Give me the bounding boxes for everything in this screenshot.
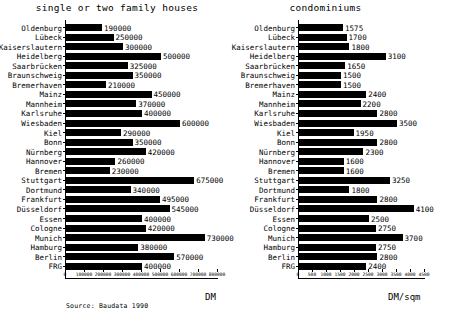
bar: [299, 215, 369, 222]
x-axis-tick-label: 600000: [171, 272, 188, 277]
x-axis-tick-label: 300000: [114, 272, 131, 277]
x-axis-tick-label: 800000: [209, 272, 226, 277]
bar: [66, 24, 102, 31]
category-label: Karlsruhe: [254, 110, 295, 118]
category-label: Oldenburg: [254, 25, 295, 33]
x-axis-tick-label: 1500: [334, 272, 345, 277]
bar: [299, 225, 376, 232]
category-label: Hamburg: [30, 244, 62, 252]
category-label: Mainz: [272, 91, 295, 99]
bar: [299, 196, 377, 203]
bar: [66, 120, 180, 127]
category-label: Bonn: [277, 139, 295, 147]
bar: [66, 158, 115, 165]
category-label: Frankfurt: [21, 196, 62, 204]
category-label: Hannover: [26, 158, 62, 166]
x-axis-ticks-condominiums: 050010001500200025003000350040004500: [298, 269, 425, 279]
bar: [66, 215, 142, 222]
category-label: Stuttgart: [21, 177, 62, 185]
bar: [66, 43, 123, 50]
category-label: Mannheim: [26, 101, 62, 109]
x-axis-tick-label: 100000: [76, 272, 93, 277]
bar: [299, 53, 386, 60]
bar: [299, 24, 343, 31]
bar: [299, 139, 377, 146]
bar: [299, 72, 341, 79]
bar: [299, 110, 377, 117]
category-label: FRG: [48, 263, 62, 271]
bar: [299, 253, 377, 260]
category-label: Kiel: [44, 130, 62, 138]
x-axis-tick-label: 4000: [404, 272, 415, 277]
bar: [66, 148, 146, 155]
x-axis-tick-label: 400000: [133, 272, 150, 277]
category-label: Karlsruhe: [21, 110, 62, 118]
bar: [299, 244, 376, 251]
category-label: Frankfurt: [254, 196, 295, 204]
category-label: Bremerhaven: [12, 82, 62, 90]
bar: [299, 158, 344, 165]
category-label: Heidelberg: [250, 53, 295, 61]
bar: [299, 81, 341, 88]
x-axis-label-condominiums: DM/sqm: [388, 292, 421, 302]
bar: [299, 167, 344, 174]
bar: [299, 129, 354, 136]
bar: [66, 253, 174, 260]
bar: [66, 34, 114, 41]
x-axis-tick-label: 700000: [190, 272, 207, 277]
plot-area-condominiums: Oldenburg1575Lübeck1700Kaiserslautern180…: [298, 20, 425, 279]
bar: [66, 139, 133, 146]
category-label: Stuttgart: [254, 177, 295, 185]
bar: [66, 205, 170, 212]
category-label: Mannheim: [259, 101, 295, 109]
bar: [299, 205, 414, 212]
x-axis-tick-label: 2500: [362, 272, 373, 277]
bar: [66, 91, 152, 98]
bar: [66, 62, 128, 69]
bar: [66, 177, 194, 184]
bar: [66, 225, 146, 232]
x-axis-tick-label: 2000: [348, 272, 359, 277]
bar: [66, 234, 205, 241]
chart-title-condominiums: condominiums: [228, 2, 449, 13]
category-label: Kiel: [277, 130, 295, 138]
bar: [299, 62, 345, 69]
category-label: Saarbrücken: [12, 63, 62, 71]
bar: [66, 167, 110, 174]
category-label: Nürnberg: [26, 149, 62, 157]
category-label: Cologne: [263, 225, 295, 233]
category-label: Lübeck: [268, 34, 295, 42]
x-axis-tick-label: 500: [308, 272, 316, 277]
bar: [66, 81, 106, 88]
category-label: Wiesbaden: [21, 120, 62, 128]
category-label: Bonn: [44, 139, 62, 147]
x-axis-tick-label: 500000: [152, 272, 169, 277]
bar: [299, 148, 363, 155]
bar: [66, 72, 133, 79]
category-label: Munich: [268, 235, 295, 243]
category-label: Dortmund: [259, 187, 295, 195]
bar: [299, 120, 397, 127]
category-label: Oldenburg: [21, 25, 62, 33]
bar: [299, 186, 349, 193]
category-label: Düsseldorf: [17, 206, 62, 214]
category-label: Wiesbaden: [254, 120, 295, 128]
category-label: Mainz: [39, 91, 62, 99]
category-label: Düsseldorf: [250, 206, 295, 214]
source-note: Source: Baudata 1990: [66, 302, 148, 310]
bar: [66, 53, 161, 60]
bar: [66, 129, 121, 136]
category-label: Braunschweig: [8, 72, 62, 80]
category-label: Nürnberg: [259, 149, 295, 157]
category-label: Braunschweig: [241, 72, 295, 80]
x-axis-label-houses: DM: [205, 292, 216, 302]
x-axis-tick-label: 4500: [418, 272, 429, 277]
bar: [66, 244, 138, 251]
category-label: Hamburg: [263, 244, 295, 252]
x-axis-tick-label: 3500: [390, 272, 401, 277]
category-label: Kaiserslautern: [0, 44, 62, 52]
x-axis-ticks-houses: 0100000200000300000400000500000600000700…: [65, 269, 218, 279]
bar: [299, 234, 403, 241]
category-label: Saarbrücken: [245, 63, 295, 71]
category-label: Bremen: [268, 168, 295, 176]
